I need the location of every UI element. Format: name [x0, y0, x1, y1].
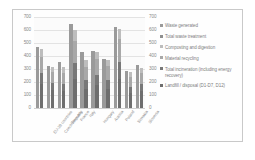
bar-segment [106, 80, 109, 89]
y-tick-label-right: 700 [149, 15, 156, 20]
bar-total-waste-treatment [51, 67, 54, 108]
legend-swatch-icon [160, 45, 163, 48]
legend-item[interactable]: Total waste treatment [160, 34, 242, 40]
legend-swatch-icon [160, 24, 163, 27]
bar-group [56, 17, 67, 108]
bar-segment [84, 89, 87, 108]
bar-group [101, 17, 112, 108]
bar-segment [73, 63, 76, 79]
legend-item[interactable]: Waste generated [160, 23, 242, 29]
bar-segment [73, 30, 76, 40]
bar-group [112, 17, 123, 108]
gridline [34, 108, 145, 109]
y-tick-label-left: 700 [24, 15, 31, 20]
y-tick-label-left: 200 [24, 80, 31, 85]
chart-legend: Waste generatedTotal waste treatmentComp… [160, 23, 242, 94]
bar-segment [40, 84, 43, 108]
bar-segment [73, 79, 76, 108]
bar-waste-generated [36, 47, 39, 108]
bar-segment [118, 39, 121, 62]
legend-item[interactable]: Material recycling [160, 56, 242, 62]
y-tick-label-left: 100 [24, 93, 31, 98]
bar-segment [36, 47, 39, 108]
bar-waste-generated [114, 27, 117, 108]
bar-segment [114, 27, 117, 108]
bar-group [134, 17, 145, 108]
y-tick-label-right: 500 [149, 41, 156, 46]
y-tick-label-right: 100 [149, 93, 156, 98]
bar-segment [62, 84, 65, 91]
bar-segment [91, 51, 94, 108]
bar-total-waste-treatment [73, 30, 76, 108]
bar-segment [73, 41, 76, 64]
bar-group [67, 17, 78, 108]
bar-total-waste-treatment [140, 68, 143, 108]
bar-total-waste-treatment [106, 60, 109, 108]
bar-segment [40, 73, 43, 84]
bar-segment [129, 77, 132, 87]
bar-segment [102, 59, 105, 108]
bar-segment [47, 66, 50, 108]
bar-segment [40, 49, 43, 57]
legend-item[interactable]: Total incineration (including energy rec… [160, 67, 242, 79]
bar-segment [51, 90, 54, 108]
y-tick-label-left: 0 [29, 106, 31, 111]
bar-group [90, 17, 101, 108]
legend-label: Material recycling [165, 56, 199, 62]
bar-segment [95, 85, 98, 108]
bar-waste-generated [47, 66, 50, 108]
legend-swatch-icon [160, 67, 163, 70]
bar-segment [58, 62, 61, 108]
bar-segment [136, 65, 139, 108]
bar-waste-generated [102, 59, 105, 108]
y-tick-label-left: 300 [24, 67, 31, 72]
bar-segment [106, 66, 109, 80]
bar-waste-generated [80, 52, 83, 108]
bar-total-waste-treatment [84, 60, 87, 108]
bar-segment [51, 72, 54, 83]
legend-swatch-icon [160, 56, 163, 59]
bar-group [78, 17, 89, 108]
bar-segment [95, 59, 98, 75]
bar-segment [140, 91, 143, 108]
y-tick-label-right: 400 [149, 54, 156, 59]
y-tick-label-right: 200 [149, 80, 156, 85]
bar-segment [118, 29, 121, 39]
y-tick-label-left: 500 [24, 41, 31, 46]
legend-label: Composting and digestion [165, 45, 215, 51]
bar-segment [84, 80, 87, 88]
bar-segment [95, 75, 98, 85]
bar-segment [118, 62, 121, 79]
bar-waste-generated [69, 24, 72, 108]
bar-segment [106, 89, 109, 108]
bar-group [45, 17, 56, 108]
legend-item[interactable]: Composting and digestion [160, 45, 242, 51]
bar-total-waste-treatment [40, 49, 43, 108]
bar-segment [62, 91, 65, 108]
y-tick-label-right: 600 [149, 28, 156, 33]
y-tick-label-right: 0 [149, 106, 151, 111]
legend-label: Total waste treatment [165, 34, 206, 40]
legend-item[interactable]: Landfill / disposal (D1-D7, D12) [160, 83, 242, 89]
legend-label: Total incineration (including energy rec… [165, 67, 242, 79]
legend-label: Waste generated [165, 23, 198, 29]
bar-waste-generated [125, 71, 128, 108]
bar-segment [69, 24, 72, 108]
legend-swatch-icon [160, 84, 163, 87]
bar-segment [140, 84, 143, 91]
bar-waste-generated [136, 65, 139, 108]
plot-area: 0100200300400500600700 01002003004005006… [34, 17, 145, 108]
bar-segment [40, 57, 43, 73]
bar-segment [84, 60, 87, 67]
legend-label: Landfill / disposal (D1-D7, D12) [165, 83, 225, 89]
bar-segment [106, 60, 109, 67]
chart-figure: 0100200300400500600700 01002003004005006… [0, 0, 255, 160]
bar-waste-generated [91, 51, 94, 108]
y-tick-label-right: 300 [149, 67, 156, 72]
bar-total-waste-treatment [129, 72, 132, 108]
bar-total-waste-treatment [95, 52, 98, 108]
bar-segment [125, 71, 128, 108]
bar-segment [84, 67, 87, 80]
bar-segment [51, 83, 54, 90]
y-tick-label-left: 600 [24, 28, 31, 33]
